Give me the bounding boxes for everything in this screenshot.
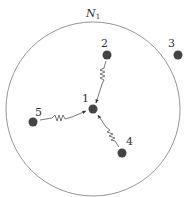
node-1-label: 1 [82, 92, 89, 105]
node-3 [174, 51, 183, 60]
node-4 [118, 149, 127, 158]
neighborhood-label: N1 [85, 7, 100, 21]
spring-4-to-1 [98, 115, 119, 147]
node-1 [89, 105, 98, 114]
node-5-label: 5 [35, 106, 42, 119]
node-2 [103, 51, 112, 60]
spring-5-to-1 [40, 111, 86, 121]
node-2-label: 2 [101, 37, 108, 50]
node-3-label: 3 [168, 37, 175, 50]
node-4-label: 4 [126, 135, 133, 148]
spring-2-to-1 [96, 61, 106, 103]
neighborhood-diagram: N1 1 2 3 4 5 [0, 0, 185, 197]
